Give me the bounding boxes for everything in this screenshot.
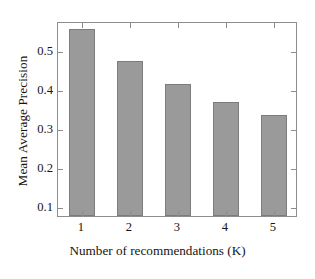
x-axis-tick [178, 23, 179, 28]
x-axis-tick-labels: 12345 [57, 220, 297, 238]
bar [117, 61, 143, 216]
x-axis-title: Number of recommendations (K) [0, 243, 315, 259]
y-axis-tick [291, 208, 296, 209]
x-axis-tick [274, 23, 275, 28]
bar-slot [213, 23, 239, 216]
x-axis-tick [226, 23, 227, 28]
bar [165, 84, 191, 216]
y-axis-tick-label: 0.5 [19, 45, 53, 58]
y-axis-tick [291, 130, 296, 131]
bar-slot [165, 23, 191, 216]
y-axis-tick-label: 0.2 [19, 162, 53, 175]
y-axis-tick [58, 169, 63, 170]
x-axis-tick-label: 1 [66, 220, 96, 234]
y-axis-tick [58, 130, 63, 131]
y-axis-tick [291, 91, 296, 92]
x-axis-tick [274, 211, 275, 216]
x-axis-tick [226, 211, 227, 216]
x-axis-tick [130, 23, 131, 28]
bar [213, 102, 239, 216]
bar-chart-figure: Mean Average Precision 0.10.20.30.40.5 1… [0, 0, 315, 279]
x-axis-tick-label: 5 [258, 220, 288, 234]
y-axis-tick [58, 52, 63, 53]
x-axis-tick-label: 2 [114, 220, 144, 234]
bar-slot [261, 23, 287, 216]
y-axis-tick [291, 169, 296, 170]
bar-slot [117, 23, 143, 216]
bar [69, 29, 95, 216]
bar-series [58, 23, 296, 216]
x-axis-tick [82, 23, 83, 28]
bar-slot [69, 23, 95, 216]
plot-area [57, 22, 297, 217]
y-axis-tick-label: 0.4 [19, 84, 53, 97]
y-axis-tick [58, 91, 63, 92]
x-axis-tick [178, 211, 179, 216]
y-axis-tick [58, 208, 63, 209]
x-axis-tick-label: 4 [210, 220, 240, 234]
x-axis-tick [130, 211, 131, 216]
x-axis-tick [82, 211, 83, 216]
y-axis-tick-labels: 0.10.20.30.40.5 [15, 22, 53, 217]
y-axis-tick-label: 0.1 [19, 201, 53, 214]
x-axis-tick-label: 3 [162, 220, 192, 234]
bar [261, 115, 287, 216]
y-axis-tick-label: 0.3 [19, 123, 53, 136]
y-axis-tick [291, 52, 296, 53]
